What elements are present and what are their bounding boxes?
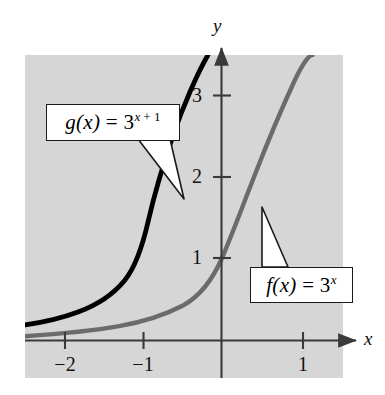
graph-canvas	[0, 0, 385, 395]
callout-g-label: g(x) = 3x + 1	[46, 104, 180, 141]
x-tick-label--2: −2	[45, 354, 85, 374]
y-tick-label-1: 1	[176, 247, 202, 267]
callout-f-equals: =	[302, 273, 314, 297]
callout-g-base: 3	[124, 110, 135, 134]
x-tick-label-1: 1	[283, 354, 323, 374]
callout-f-equation: f(x) = 3x	[266, 273, 337, 298]
callout-f-exponent-x: x	[331, 272, 337, 287]
y-tick-label-2: 2	[176, 166, 202, 186]
x-axis-label: x	[364, 329, 372, 348]
x-tick-label--1: −1	[123, 354, 163, 374]
callout-f-function: f(x)	[266, 273, 296, 297]
callout-g-exponent-const: 1	[154, 109, 161, 124]
callout-g-exponent: x + 1	[134, 109, 160, 124]
callout-f-base: 3	[320, 273, 331, 297]
callout-g-function: g(x)	[65, 110, 100, 134]
callout-g-equals: =	[106, 110, 118, 134]
y-axis-label: y	[213, 16, 221, 35]
callout-f-label: f(x) = 3x	[250, 267, 353, 303]
y-tick-label-3: 3	[176, 85, 202, 105]
callout-f-exponent: x	[331, 272, 337, 287]
callout-g-equation: g(x) = 3x + 1	[65, 110, 160, 135]
callout-g-exponent-op: +	[143, 109, 151, 124]
exponential-functions-graph: x y −2 −1 1 1 2 3 g(x) = 3x + 1 f(x) = 3…	[0, 0, 385, 395]
